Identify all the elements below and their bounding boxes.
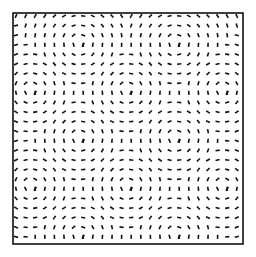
dash-segment xyxy=(111,148,113,152)
dash-segment xyxy=(207,52,208,56)
dash-segment xyxy=(159,149,162,152)
dash-segment xyxy=(158,24,161,27)
dash-segment xyxy=(235,121,239,123)
dash-segment xyxy=(33,150,37,151)
dash-segment xyxy=(187,120,190,123)
dash-segment xyxy=(149,120,151,124)
dash-segment xyxy=(34,14,36,18)
dash-segment xyxy=(158,15,162,17)
dash-segment xyxy=(43,197,46,200)
dash-segment xyxy=(150,52,152,56)
dash-segment xyxy=(235,227,239,228)
dash-segment xyxy=(227,24,228,28)
dash-segment xyxy=(53,62,56,65)
dash-segment xyxy=(207,197,210,200)
dash-segment xyxy=(81,112,85,113)
dash-segment xyxy=(91,207,95,209)
dash-segment xyxy=(72,217,76,218)
dash-segment xyxy=(33,82,37,84)
dash-segment xyxy=(159,129,161,133)
dash-segment xyxy=(207,177,209,181)
dash-segment xyxy=(198,129,199,133)
dash-segment xyxy=(111,197,114,200)
dash-segment xyxy=(206,111,209,113)
dash-segment xyxy=(62,169,66,171)
dash-segment xyxy=(225,169,229,170)
dash-segment xyxy=(25,24,26,28)
dash-segment xyxy=(188,100,189,104)
dash-segment xyxy=(101,120,103,123)
dash-segment xyxy=(72,83,76,84)
dash-segment xyxy=(225,121,229,122)
dash-segment xyxy=(216,64,220,65)
dash-segment xyxy=(158,111,162,113)
dash-segment xyxy=(72,198,76,199)
dash-segment xyxy=(197,15,200,18)
dash-segment xyxy=(217,24,219,28)
dash-segment xyxy=(168,159,172,160)
dash-segment xyxy=(111,177,113,181)
dash-segment xyxy=(24,160,28,161)
dash-segment xyxy=(129,73,133,74)
dash-segment xyxy=(158,159,161,161)
dash-segment xyxy=(139,111,143,113)
dash-segment xyxy=(139,72,142,75)
dash-segment xyxy=(235,159,239,161)
dash-segment xyxy=(207,101,210,104)
dash-segment xyxy=(225,208,229,209)
dash-segment xyxy=(53,101,55,105)
dash-segment xyxy=(188,33,190,37)
dash-segment xyxy=(149,101,151,105)
dash-segment xyxy=(207,14,210,17)
dash-segment xyxy=(159,53,161,56)
dash-segment xyxy=(44,81,46,85)
dash-segment xyxy=(139,197,142,200)
dash-segment xyxy=(81,25,85,26)
dash-segment xyxy=(208,91,209,95)
dash-segment xyxy=(111,168,114,171)
dash-segment xyxy=(139,207,143,209)
dash-segment xyxy=(207,24,209,28)
dash-segment xyxy=(177,64,181,65)
dash-segment xyxy=(216,150,220,151)
dash-segment xyxy=(14,25,18,26)
dash-segment xyxy=(24,178,27,181)
dash-segment xyxy=(206,168,209,171)
dash-segment xyxy=(140,24,142,28)
dash-segment xyxy=(64,81,65,85)
dash-segment xyxy=(64,177,65,181)
dash-segment xyxy=(64,139,65,143)
dash-segment xyxy=(208,187,209,191)
dash-segment xyxy=(53,72,55,75)
dash-segment xyxy=(216,178,219,181)
dash-segment xyxy=(159,225,161,229)
dash-segment xyxy=(72,149,76,151)
dash-segment xyxy=(54,225,55,229)
dash-segment xyxy=(101,72,103,76)
dash-segment xyxy=(168,25,172,26)
dash-segment xyxy=(92,225,94,229)
dash-segment xyxy=(235,236,239,237)
dash-segment xyxy=(207,81,209,85)
dash-segment xyxy=(149,207,152,210)
dash-segment xyxy=(235,197,238,200)
dash-segment xyxy=(73,43,74,47)
dash-segment xyxy=(62,24,65,27)
dash-segment xyxy=(187,169,191,171)
dash-segment xyxy=(120,14,122,18)
dash-segment xyxy=(14,168,17,171)
dash-segment xyxy=(130,24,132,28)
dash-segment xyxy=(168,121,172,123)
dash-segment xyxy=(225,54,229,55)
dash-segment xyxy=(24,150,28,151)
dash-segment xyxy=(168,169,172,170)
dash-segment xyxy=(225,112,229,113)
dash-segment xyxy=(129,82,133,84)
dash-segment xyxy=(140,52,141,56)
dash-segment xyxy=(120,150,124,151)
dash-segment xyxy=(187,159,191,161)
dash-segment xyxy=(236,187,237,191)
dash-segment xyxy=(34,24,36,28)
dash-segment xyxy=(206,159,210,161)
dash-segment xyxy=(197,216,200,219)
